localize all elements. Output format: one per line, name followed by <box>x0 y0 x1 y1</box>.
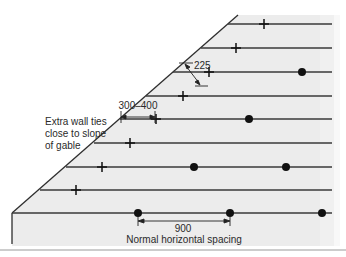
dim-horizontal-label: 900 <box>175 223 192 234</box>
dot-icon <box>226 209 234 217</box>
extra-ties-label-line3: of gable <box>45 140 81 151</box>
dot-icon <box>190 163 198 171</box>
extra-ties-label-line1: Extra wall ties <box>45 116 107 127</box>
horizontal-caption: Normal horizontal spacing <box>126 234 242 245</box>
dim-vertical-label: 225 <box>194 60 211 71</box>
dot-icon <box>282 163 290 171</box>
dot-icon <box>245 115 253 123</box>
dot-icon <box>298 68 306 76</box>
dot-icon <box>134 209 142 217</box>
extra-ties-label-line2: close to slope <box>45 128 107 139</box>
gable-wall-tie-diagram: 300–400 225 900 Normal horizontal spacin… <box>0 0 346 257</box>
dim-slope-offset-label: 300–400 <box>119 100 158 111</box>
dot-icon <box>318 209 326 217</box>
